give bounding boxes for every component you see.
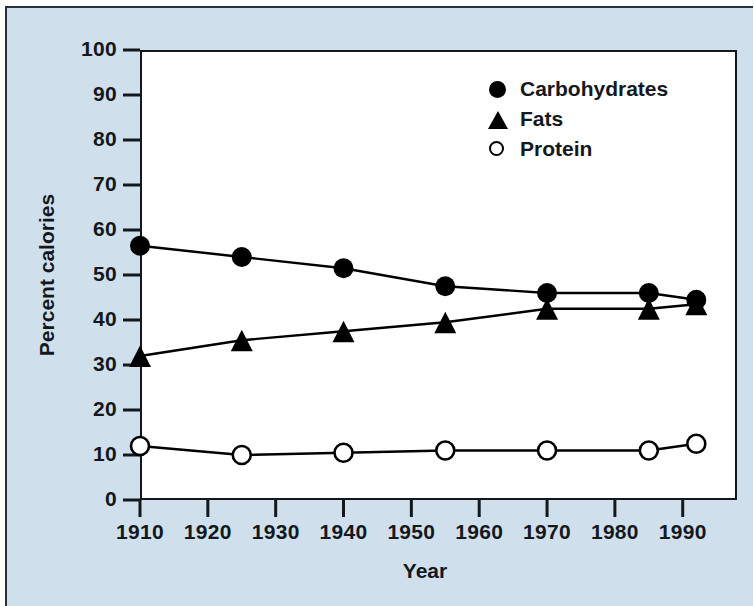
figure-root: 0102030405060708090100 19101920193019401… — [0, 0, 754, 606]
open-circle-icon-shape — [489, 141, 504, 156]
series-line-fats — [140, 304, 696, 356]
y-tick-label: 0 — [57, 487, 117, 511]
y-tick-label: 100 — [57, 37, 117, 61]
legend-item-label: Fats — [520, 108, 563, 129]
x-tick-label: 1990 — [643, 520, 723, 544]
data-point-protein — [131, 437, 149, 455]
data-point-carbohydrates — [130, 236, 150, 256]
y-tick-label: 50 — [57, 262, 117, 286]
x-axis-title: Year — [375, 559, 475, 583]
y-tick-label: 10 — [57, 442, 117, 466]
y-tick-label: 20 — [57, 397, 117, 421]
data-point-carbohydrates — [435, 276, 455, 296]
series-line-protein — [140, 444, 696, 455]
chart-legend: CarbohydratesFatsProtein — [485, 74, 705, 164]
legend-item-protein: Protein — [485, 134, 705, 163]
filled-circle-icon — [485, 76, 511, 102]
open-circle-icon — [485, 136, 511, 162]
data-point-protein — [436, 442, 454, 460]
y-tick-label: 60 — [57, 217, 117, 241]
filled-triangle-icon-shape — [488, 111, 508, 129]
data-point-protein — [687, 435, 705, 453]
y-tick-label: 70 — [57, 172, 117, 196]
data-point-protein — [640, 442, 658, 460]
data-point-protein — [233, 446, 251, 464]
data-point-carbohydrates — [334, 258, 354, 278]
legend-item-carbohydrates: Carbohydrates — [485, 74, 705, 103]
filled-triangle-icon — [485, 106, 511, 132]
data-point-fats — [129, 346, 151, 367]
y-tick-label: 80 — [57, 127, 117, 151]
y-tick-label: 90 — [57, 82, 117, 106]
data-point-protein — [335, 444, 353, 462]
y-tick-label: 40 — [57, 307, 117, 331]
legend-item-label: Protein — [520, 138, 592, 159]
series-line-carbohydrates — [140, 246, 696, 300]
legend-item-label: Carbohydrates — [520, 78, 668, 99]
legend-item-fats: Fats — [485, 104, 705, 133]
data-point-protein — [538, 442, 556, 460]
y-tick-label: 30 — [57, 352, 117, 376]
chart-panel: 0102030405060708090100 19101920193019401… — [5, 6, 753, 606]
data-point-carbohydrates — [232, 247, 252, 267]
y-axis-title: Percent calories — [35, 175, 59, 375]
filled-circle-icon-shape — [489, 81, 506, 98]
data-series-layer — [129, 236, 707, 464]
